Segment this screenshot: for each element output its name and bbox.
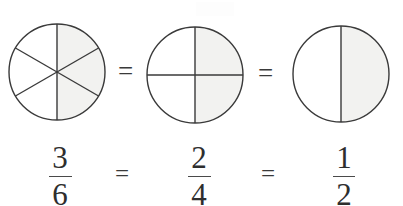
shaded-region-two-parts: [341, 26, 389, 122]
fraction-two-fourths: 2 4: [181, 142, 217, 206]
fraction-numerator: 3: [42, 142, 78, 174]
shaded-region-six-parts: [57, 24, 105, 120]
fraction-row: 3 6 = 2 4 = 1 2: [0, 133, 403, 206]
pie-chart-two-parts: [290, 23, 392, 125]
pie-chart-six-parts: [6, 21, 108, 123]
fraction-numerator: 1: [326, 142, 362, 174]
equals-sign-top-2: =: [258, 60, 273, 87]
pie-four-parts-svg: [144, 24, 246, 126]
circle-row: = =: [0, 0, 403, 135]
fraction-three-sixths: 3 6: [42, 142, 78, 206]
equals-sign-bottom-1: =: [115, 161, 129, 186]
pie-chart-four-parts: [144, 24, 246, 126]
equals-sign-top-1: =: [118, 58, 133, 85]
fraction-numerator: 2: [181, 142, 217, 174]
pie-two-parts-svg: [290, 23, 392, 125]
fraction-denominator: 6: [42, 179, 78, 206]
pie-six-parts-svg: [6, 21, 108, 123]
fraction-one-half: 1 2: [326, 142, 362, 206]
equals-sign-bottom-2: =: [261, 161, 275, 186]
fraction-denominator: 4: [181, 179, 217, 206]
figure-canvas: = = 3 6: [0, 0, 403, 206]
fraction-denominator: 2: [326, 179, 362, 206]
